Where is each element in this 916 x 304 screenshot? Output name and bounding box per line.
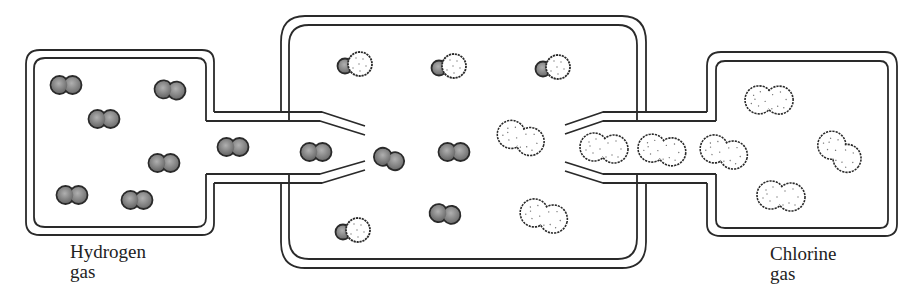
- hydrogen-label-line2: gas: [70, 262, 146, 282]
- chlorine-label-line2: gas: [770, 264, 837, 284]
- hydrogen-gas-label: Hydrogen gas: [70, 242, 146, 282]
- chlorine-label-line1: Chlorine: [770, 244, 837, 264]
- hydrogen-molecules: [51, 76, 470, 225]
- chlorine-gas-label: Chlorine gas: [770, 244, 837, 284]
- chlorine-molecules: [494, 83, 868, 236]
- hydrogen-label-line1: Hydrogen: [70, 242, 146, 262]
